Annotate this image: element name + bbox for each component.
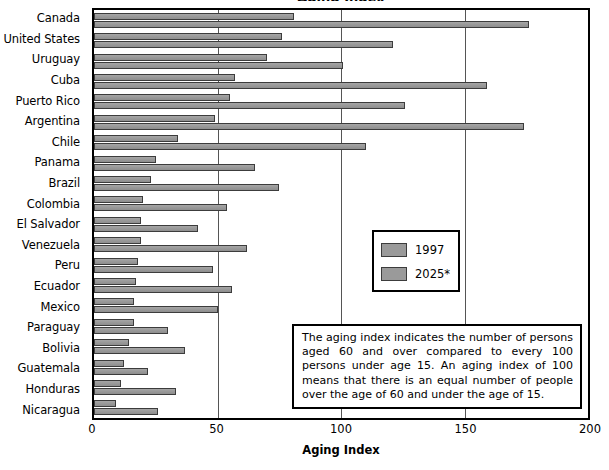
x-tick-label: 0 <box>88 422 95 436</box>
bar <box>94 266 213 273</box>
category-label: Ecuador <box>0 276 86 297</box>
legend-label: 1997 <box>415 243 444 257</box>
bar <box>94 339 129 346</box>
bar <box>94 347 185 354</box>
category-label: Peru <box>0 255 86 276</box>
bar-group <box>94 71 588 91</box>
category-label: Brazil <box>0 173 86 194</box>
bar <box>94 327 168 334</box>
bar <box>94 143 366 150</box>
bar-group <box>94 255 588 275</box>
legend-row: 1997 <box>381 238 458 262</box>
category-label: Argentina <box>0 111 86 132</box>
legend-label: 2025* <box>415 267 450 281</box>
category-label: Nicaragua <box>0 399 86 420</box>
bar <box>94 400 116 407</box>
bar <box>94 237 141 244</box>
category-label: Cuba <box>0 70 86 91</box>
bar <box>94 123 524 130</box>
category-label: Venezuela <box>0 235 86 256</box>
category-label: Puerto Rico <box>0 90 86 111</box>
bar <box>94 54 267 61</box>
bar <box>94 225 198 232</box>
bar <box>94 245 247 252</box>
bar <box>94 286 232 293</box>
bar <box>94 184 279 191</box>
bar-group <box>94 92 588 112</box>
aging-index-bar-chart: Aging Index CanadaUnited StatesUruguayCu… <box>0 0 609 470</box>
category-label: Canada <box>0 8 86 29</box>
bar <box>94 13 294 20</box>
category-label: Bolivia <box>0 338 86 359</box>
bar-group <box>94 132 588 152</box>
bar <box>94 82 487 89</box>
bar-group <box>94 10 588 30</box>
bar <box>94 135 178 142</box>
bar <box>94 360 124 367</box>
bar <box>94 368 148 375</box>
category-axis-labels: CanadaUnited StatesUruguayCubaPuerto Ric… <box>0 8 86 420</box>
category-label: El Salvador <box>0 214 86 235</box>
bar <box>94 196 143 203</box>
bar <box>94 21 529 28</box>
bar <box>94 33 282 40</box>
bar <box>94 115 215 122</box>
bar <box>94 298 134 305</box>
bar-group <box>94 214 588 234</box>
category-label: Paraguay <box>0 317 86 338</box>
bar-group <box>94 234 588 254</box>
bar-group <box>94 296 588 316</box>
bar <box>94 74 235 81</box>
bar <box>94 217 141 224</box>
x-tick-label: 100 <box>330 422 352 436</box>
bar <box>94 388 176 395</box>
bar <box>94 380 121 387</box>
bar <box>94 176 151 183</box>
x-tick-label: 50 <box>209 422 224 436</box>
legend: 19972025* <box>372 230 460 292</box>
bar <box>94 164 255 171</box>
bar-group <box>94 112 588 132</box>
category-label: Guatemala <box>0 358 86 379</box>
bar-group <box>94 30 588 50</box>
legend-row: 2025* <box>381 262 458 286</box>
bar <box>94 156 156 163</box>
bar-group <box>94 51 588 71</box>
bar-group <box>94 173 588 193</box>
category-label: Colombia <box>0 193 86 214</box>
legend-swatch <box>381 267 407 281</box>
bar-group <box>94 153 588 173</box>
bar-group <box>94 275 588 295</box>
x-tick-label: 150 <box>455 422 477 436</box>
bar <box>94 204 227 211</box>
bar-group <box>94 194 588 214</box>
category-label: Panama <box>0 152 86 173</box>
bar <box>94 306 218 313</box>
chart-title-partial: Aging Index <box>92 0 590 1</box>
category-label: United States <box>0 29 86 50</box>
note-box: The aging index indicates the number of … <box>292 324 582 409</box>
bar <box>94 102 405 109</box>
category-label: Uruguay <box>0 49 86 70</box>
bar <box>94 278 136 285</box>
category-label: Mexico <box>0 296 86 317</box>
bar <box>94 62 343 69</box>
category-label: Chile <box>0 132 86 153</box>
note-text: The aging index indicates the number of … <box>302 331 573 402</box>
bar <box>94 94 230 101</box>
legend-swatch <box>381 243 407 257</box>
x-tick-label: 200 <box>579 422 601 436</box>
category-label: Honduras <box>0 379 86 400</box>
x-axis-title: Aging Index <box>92 443 590 457</box>
bar <box>94 319 134 326</box>
bar <box>94 258 138 265</box>
bar <box>94 41 393 48</box>
bar <box>94 408 158 415</box>
x-axis-tick-labels: 050100150200 <box>92 422 590 440</box>
